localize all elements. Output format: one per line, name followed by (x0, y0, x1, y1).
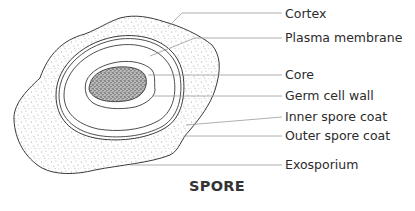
label-inner-spore-coat: Inner spore coat (285, 110, 387, 124)
label-exosporium: Exosporium (285, 158, 358, 172)
diagram-title: SPORE (180, 178, 254, 194)
leader-line-inner-spore-coat (186, 117, 282, 125)
label-outer-spore-coat: Outer spore coat (285, 129, 390, 143)
label-cortex: Cortex (285, 7, 326, 21)
label-core: Core (285, 68, 314, 82)
leader-line-cortex (168, 13, 282, 27)
label-plasma-membrane: Plasma membrane (285, 31, 402, 45)
label-germ-cell-wall: Germ cell wall (285, 89, 374, 103)
